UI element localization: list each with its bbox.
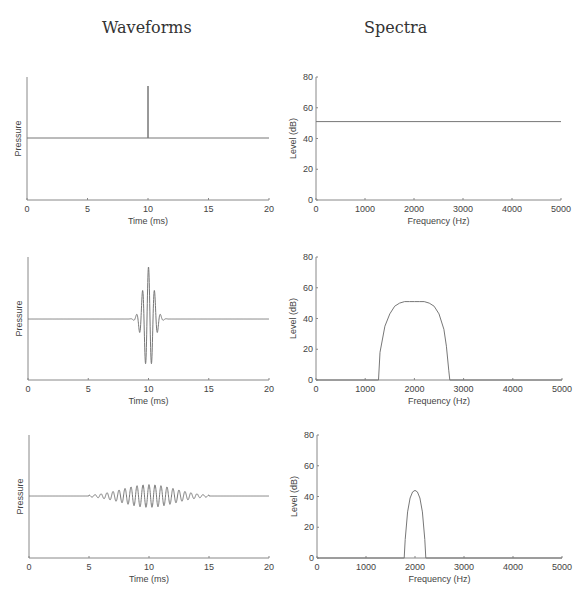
x-tick-label: 2000 [404, 204, 424, 214]
x-tick-label: 10 [143, 384, 153, 394]
y-axis-label: Level (dB) [288, 118, 298, 159]
x-tick-label: 5 [86, 384, 91, 394]
figure-canvas: 05101520Time (ms)Pressure 01000200030004… [0, 0, 586, 593]
x-tick-label: 5000 [551, 204, 571, 214]
axis-lines [316, 257, 562, 380]
x-axis-label: Time (ms) [128, 396, 168, 406]
x-tick-label: 0 [314, 562, 319, 572]
spectrum-trace [317, 490, 562, 558]
x-tick-label: 20 [264, 204, 274, 214]
x-tick-label: 1000 [355, 204, 375, 214]
y-tick-label: 40 [303, 134, 313, 144]
x-tick-label: 15 [203, 204, 213, 214]
waveform-trace [27, 86, 269, 138]
x-tick-label: 5000 [552, 562, 572, 572]
x-axis-label: Time (ms) [129, 574, 169, 584]
y-tick-label: 0 [308, 375, 313, 385]
y-axis-label: Pressure [14, 300, 24, 336]
x-tick-label: 15 [204, 562, 214, 572]
x-tick-label: 0 [26, 562, 31, 572]
x-tick-label: 5 [86, 562, 91, 572]
y-tick-label: 60 [303, 103, 313, 113]
x-tick-label: 20 [264, 384, 274, 394]
x-tick-label: 5000 [552, 384, 572, 394]
x-tick-label: 20 [264, 562, 274, 572]
x-tick-label: 10 [143, 204, 153, 214]
spectrum-trace [316, 302, 562, 380]
x-tick-label: 0 [313, 204, 318, 214]
spectrum-flat-chart: 010002000300040005000020406080Frequency … [288, 72, 571, 226]
waveform-trace [28, 267, 269, 364]
waveform-impulse-chart: 05101520Time (ms)Pressure [13, 77, 274, 226]
spectrum-broad-band-chart: 010002000300040005000020406080Frequency … [288, 252, 572, 406]
waveform-trace [29, 485, 269, 508]
x-tick-label: 5 [85, 204, 90, 214]
x-tick-label: 10 [144, 562, 154, 572]
x-tick-label: 4000 [503, 562, 523, 572]
y-tick-label: 20 [303, 344, 313, 354]
y-axis-label: Level (dB) [289, 476, 299, 517]
x-axis-label: Frequency (Hz) [408, 574, 470, 584]
x-tick-label: 3000 [454, 384, 474, 394]
x-tick-label: 3000 [453, 204, 473, 214]
y-tick-label: 40 [304, 492, 314, 502]
y-tick-label: 80 [303, 72, 313, 82]
x-tick-label: 1000 [355, 384, 375, 394]
waveform-long-burst-chart: 05101520Time (ms)Pressure [15, 435, 274, 584]
y-tick-label: 40 [303, 314, 313, 324]
axis-lines [317, 435, 562, 558]
x-tick-label: 2000 [405, 562, 425, 572]
y-axis-label: Pressure [15, 478, 25, 514]
y-tick-label: 60 [303, 283, 313, 293]
x-axis-label: Frequency (Hz) [407, 216, 469, 226]
x-tick-label: 3000 [454, 562, 474, 572]
y-tick-label: 20 [303, 164, 313, 174]
x-tick-label: 0 [24, 204, 29, 214]
y-axis-label: Level (dB) [288, 298, 298, 339]
spectrum-narrow-band-chart: 010002000300040005000020406080Frequency … [289, 430, 572, 584]
y-tick-label: 60 [304, 461, 314, 471]
x-tick-label: 2000 [404, 384, 424, 394]
y-tick-label: 20 [304, 522, 314, 532]
waveform-short-burst-chart: 05101520Time (ms)Pressure [14, 257, 274, 406]
x-tick-label: 4000 [503, 384, 523, 394]
x-tick-label: 0 [25, 384, 30, 394]
axis-lines [316, 77, 561, 200]
y-axis-label: Pressure [13, 120, 23, 156]
x-tick-label: 15 [204, 384, 214, 394]
x-axis-label: Time (ms) [128, 216, 168, 226]
x-tick-label: 0 [313, 384, 318, 394]
y-tick-label: 0 [308, 195, 313, 205]
x-tick-label: 1000 [356, 562, 376, 572]
x-tick-label: 4000 [502, 204, 522, 214]
y-tick-label: 80 [304, 430, 314, 440]
y-tick-label: 80 [303, 252, 313, 262]
y-tick-label: 0 [309, 553, 314, 563]
x-axis-label: Frequency (Hz) [408, 396, 470, 406]
